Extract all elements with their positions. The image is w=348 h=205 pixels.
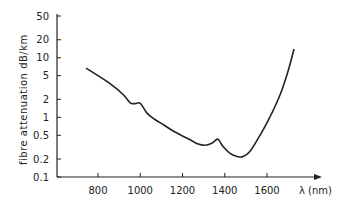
y-axis: 0.10.20.5125102050 <box>33 11 61 183</box>
attenuation-curve <box>86 49 294 157</box>
x-tick-label: 1600 <box>254 185 279 196</box>
y-tick-label: 20 <box>36 34 49 45</box>
y-tick-label: 1 <box>43 112 49 123</box>
x-tick-label: 1400 <box>212 185 237 196</box>
y-tick-label: 0.2 <box>33 154 49 165</box>
y-axis-title: fibre attenuation dB/km <box>18 34 29 165</box>
x-tick-label: 800 <box>88 185 107 196</box>
y-tick-label: 0.5 <box>33 130 49 141</box>
x-tick-label: 1200 <box>170 185 195 196</box>
attenuation-chart: 0.10.20.5125102050 8001000120014001600 f… <box>0 0 348 205</box>
y-tick-label: 0.1 <box>33 172 49 183</box>
y-tick-label: 2 <box>43 94 49 105</box>
x-axis-title: λ (nm) <box>299 185 332 196</box>
y-tick-label: 10 <box>36 52 49 63</box>
y-tick-label: 5 <box>43 70 49 81</box>
y-tick-label: 50 <box>36 11 49 22</box>
x-axis: 8001000120014001600 <box>57 173 322 196</box>
x-tick-label: 1000 <box>128 185 153 196</box>
x-axis-arrow <box>314 174 322 180</box>
